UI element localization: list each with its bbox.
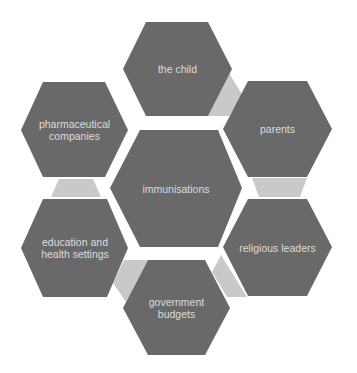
hexagon-diagram: the child parents religious leaders gove… (0, 0, 357, 373)
connector-parents-religious (252, 178, 307, 197)
hexagon-religious-leaders (223, 199, 332, 296)
connector-education-pharma (51, 179, 101, 197)
diagram-canvas (0, 0, 357, 373)
hexagon-education-health (21, 199, 128, 297)
hexagon-immunisations-center (110, 130, 242, 247)
hexagon-pharmaceutical (21, 82, 128, 177)
